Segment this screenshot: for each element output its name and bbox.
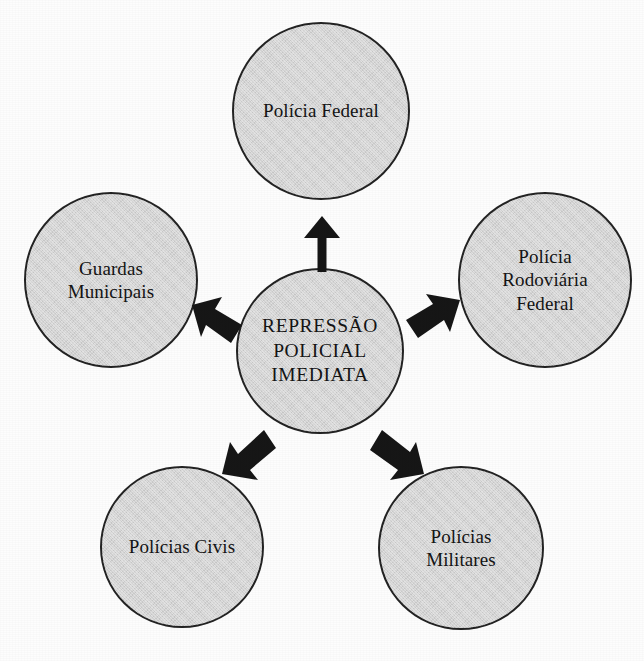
node-policias-civis[interactable]: Polícias Civis [100, 466, 264, 628]
arrow-to-policias-civis-icon [220, 428, 278, 484]
node-policias-militares[interactable]: Polícias Militares [378, 466, 544, 630]
node-policia-federal-label: Polícia Federal [263, 99, 379, 122]
arrow-to-guardas-municipais-icon [190, 295, 246, 349]
arrow-to-policias-militares-icon [368, 428, 426, 484]
arrow-to-policia-federal-icon [296, 214, 348, 272]
node-policia-federal[interactable]: Polícia Federal [232, 22, 410, 200]
node-guardas-municipais[interactable]: Guardas Municipais [24, 192, 198, 368]
node-guardas-municipais-label: Guardas Municipais [68, 257, 155, 303]
node-policia-rodoviaria-federal-label: Polícia Rodoviária Federal [502, 245, 587, 315]
diagram-canvas: Polícia Federal Guardas Municipais Políc… [0, 0, 644, 661]
node-policia-rodoviaria-federal[interactable]: Polícia Rodoviária Federal [458, 192, 632, 368]
arrow-to-policia-rodoviaria-federal-icon [404, 292, 462, 348]
node-policias-civis-label: Polícias Civis [129, 535, 235, 558]
node-policias-militares-label: Polícias Militares [426, 525, 496, 571]
node-repressao-policial-imediata[interactable]: REPRESSÃO POLICIAL IMEDIATA [236, 268, 404, 434]
node-repressao-policial-imediata-label: REPRESSÃO POLICIAL IMEDIATA [262, 314, 378, 388]
